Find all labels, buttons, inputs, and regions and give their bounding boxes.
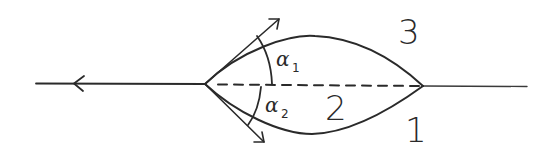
alpha-1-label: α	[276, 47, 290, 71]
dashed-chord	[218, 85, 420, 87]
diagram-canvas: α 1 α 2 3 2 1	[0, 0, 553, 160]
lens-diagram: α 1 α 2 3 2 1	[0, 0, 553, 160]
region-3-label: 3	[398, 12, 420, 52]
axis-line-left	[36, 84, 205, 85]
alpha-1-subscript: 1	[292, 61, 300, 75]
alpha-2-label: α	[265, 93, 279, 117]
alpha-2-subscript: 2	[281, 107, 289, 121]
axis-line-right	[423, 86, 527, 87]
region-2-label: 2	[325, 88, 347, 128]
region-1-label: 1	[405, 110, 427, 150]
lower-boundary-curve	[205, 84, 423, 134]
upper-tangent-line	[205, 19, 279, 84]
upper-boundary-curve	[205, 36, 423, 86]
